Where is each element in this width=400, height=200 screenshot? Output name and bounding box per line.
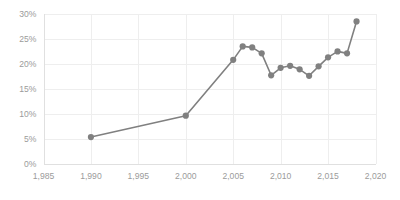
gridlines-vertical <box>92 14 377 164</box>
series-markers <box>88 18 360 140</box>
x-axis-tick-label: 1,990 <box>80 171 102 181</box>
chart-canvas: 0%5%10%15%20%25%30% 1,9851,9901,9952,000… <box>0 0 400 200</box>
line-chart: 0%5%10%15%20%25%30% 1,9851,9901,9952,000… <box>0 0 400 200</box>
x-axis-tick-label: 2,010 <box>270 171 292 181</box>
data-point-marker[interactable] <box>240 43 246 49</box>
data-point-marker[interactable] <box>287 63 293 69</box>
y-axis-tick-label: 10% <box>19 109 37 119</box>
series-line <box>91 21 357 137</box>
data-point-marker[interactable] <box>306 73 312 79</box>
data-point-marker[interactable] <box>297 66 303 72</box>
y-axis-tick-label: 15% <box>19 84 37 94</box>
y-axis-tick-labels: 0%5%10%15%20%25%30% <box>19 9 37 169</box>
x-axis-tick-label: 2,015 <box>317 171 339 181</box>
y-axis-tick-label: 30% <box>19 9 37 19</box>
data-point-marker[interactable] <box>325 54 331 60</box>
data-point-marker[interactable] <box>230 57 236 63</box>
x-axis-tick-label: 1,985 <box>33 171 55 181</box>
data-point-marker[interactable] <box>278 65 284 71</box>
data-point-marker[interactable] <box>344 50 350 56</box>
data-point-marker[interactable] <box>183 113 189 119</box>
data-point-marker[interactable] <box>249 44 255 50</box>
x-axis-tick-labels: 1,9851,9901,9952,0002,0052,0102,0152,020 <box>33 171 387 181</box>
gridlines-horizontal <box>44 15 376 140</box>
data-point-marker[interactable] <box>334 48 340 54</box>
y-axis-tick-label: 20% <box>19 59 37 69</box>
y-axis-tick-label: 0% <box>24 159 37 169</box>
data-point-marker[interactable] <box>259 50 265 56</box>
data-point-marker[interactable] <box>353 18 359 24</box>
x-axis-tick-label: 1,995 <box>128 171 150 181</box>
data-point-marker[interactable] <box>88 134 94 140</box>
x-axis-tick-label: 2,005 <box>222 171 244 181</box>
x-axis-tick-label: 2,000 <box>175 171 197 181</box>
y-axis-tick-label: 25% <box>19 34 37 44</box>
data-point-marker[interactable] <box>315 63 321 69</box>
x-axis-tick-label: 2,020 <box>365 171 387 181</box>
y-axis-tick-label: 5% <box>24 134 37 144</box>
series-line-path <box>91 21 357 137</box>
data-point-marker[interactable] <box>268 72 274 78</box>
